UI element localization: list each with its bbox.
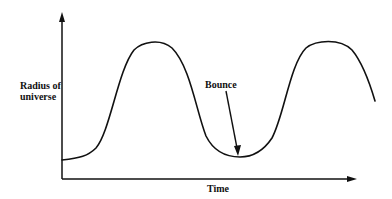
bounce-label: Bounce — [205, 79, 237, 90]
bounce-arrowhead-icon — [234, 145, 241, 156]
y-axis-label: Radius of universe — [20, 80, 64, 102]
x-axis-label: Time — [207, 183, 229, 194]
y-axis-label-line-2: universe — [20, 91, 64, 102]
radius-curve — [62, 42, 375, 161]
bounce-arrow — [226, 91, 237, 148]
y-axis-label-line-1: Radius of — [20, 80, 64, 91]
y-axis-arrowhead-icon — [59, 12, 65, 22]
x-axis-arrowhead-icon — [347, 176, 357, 182]
